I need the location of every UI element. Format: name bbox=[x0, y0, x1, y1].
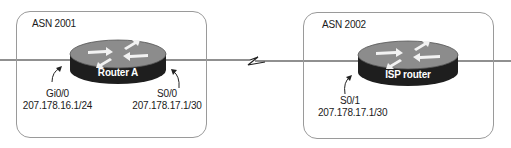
interface-s0-1: S0/1 207.178.17.1/30 bbox=[318, 95, 398, 119]
interface-name: S0/1 bbox=[318, 95, 398, 107]
interface-address: 207.178.17.1/30 bbox=[318, 107, 398, 119]
as-label: ASN 2002 bbox=[322, 19, 366, 30]
interface-address: 207.178.16.1/24 bbox=[20, 100, 95, 112]
interface-name: S0/0 bbox=[127, 88, 207, 100]
router-label: Router A bbox=[68, 67, 168, 78]
interface-gi0-0: Gi0/0 207.178.16.1/24 bbox=[20, 88, 95, 112]
router-label: ISP router bbox=[356, 69, 460, 80]
interface-s0-0: S0/0 207.178.17.1/30 bbox=[127, 88, 207, 112]
interface-name: Gi0/0 bbox=[20, 88, 95, 100]
interface-address: 207.178.17.1/30 bbox=[127, 100, 207, 112]
router-a[interactable]: Router A bbox=[68, 32, 168, 86]
as-label: ASN 2001 bbox=[32, 18, 76, 29]
isp-router[interactable]: ISP router bbox=[356, 32, 460, 88]
